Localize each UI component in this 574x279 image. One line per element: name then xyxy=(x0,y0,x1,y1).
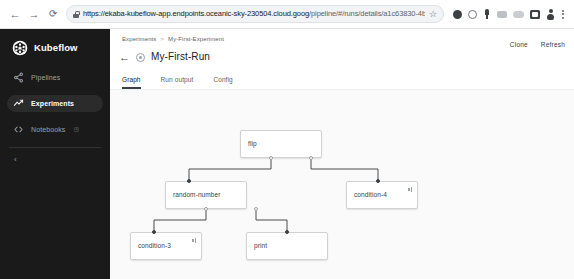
sidebar-item-experiments[interactable]: Experiments xyxy=(7,95,103,112)
graph-node-label-condition-3: condition-3 xyxy=(138,243,171,250)
lock-icon xyxy=(73,11,79,18)
header-actions: Clone Refresh xyxy=(510,42,565,49)
sidebar-item-pipelines[interactable]: Pipelines xyxy=(7,69,103,86)
extension-icon-1[interactable] xyxy=(453,10,462,19)
main-panel: Experiments > My-First-Experiment ← My-F… xyxy=(110,29,574,279)
graph-node-random-number[interactable]: random-number xyxy=(165,181,247,209)
extension-icon-6[interactable] xyxy=(530,10,540,19)
brand-header[interactable]: Kubeflow xyxy=(0,35,110,61)
extension-icon-pin[interactable] xyxy=(483,9,491,19)
run-status-icon xyxy=(136,53,145,62)
extension-icons xyxy=(449,9,555,20)
pipelines-icon xyxy=(13,72,24,83)
status-badge-check-flip xyxy=(309,135,316,142)
sidebar-collapse-button[interactable]: ‹ xyxy=(14,156,24,164)
breadcrumb: Experiments > My-First-Experiment xyxy=(119,34,564,44)
back-button[interactable]: ← xyxy=(119,52,130,63)
forward-arrow-icon[interactable]: → xyxy=(25,5,43,23)
graph-node-condition-3[interactable]: condition-3 xyxy=(130,232,202,260)
brand-title: Kubeflow xyxy=(34,43,78,53)
status-badge-check-random-number xyxy=(234,186,241,193)
page-title: My-First-Run xyxy=(151,52,210,62)
kebab-menu-icon[interactable] xyxy=(558,10,568,19)
tab-graph[interactable]: Graph xyxy=(122,77,141,90)
page-header: Experiments > My-First-Experiment ← My-F… xyxy=(110,29,574,90)
breadcrumb-separator: > xyxy=(160,36,164,42)
graph-node-label-flip: flip xyxy=(248,141,257,148)
input-port-random-number xyxy=(187,179,191,183)
sidebar-item-label-experiments: Experiments xyxy=(31,100,74,107)
url-text: https://ekaba-kubeflow-app.endpoints.oce… xyxy=(83,10,425,18)
experiments-icon xyxy=(13,98,24,109)
browser-window: ← → ⟳ https://ekaba-kubeflow-app.endpoin… xyxy=(0,0,574,279)
breadcrumb-parent[interactable]: Experiments xyxy=(122,36,156,42)
url-path: /pipeline/#/runs/details/a1c63830-4bd2-1… xyxy=(309,10,425,18)
address-bar[interactable]: https://ekaba-kubeflow-app.endpoints.oce… xyxy=(66,5,444,23)
navigation-buttons: ← → ⟳ xyxy=(6,5,62,23)
extension-icon-5[interactable] xyxy=(513,11,524,18)
graph-node-label-condition-4: condition-4 xyxy=(354,192,387,199)
sidebar-item-notebooks[interactable]: Notebooks ◳ xyxy=(7,121,103,138)
graph-node-label-print: print xyxy=(254,243,267,250)
graph-node-print[interactable]: print xyxy=(246,232,328,260)
input-port-print xyxy=(285,230,289,234)
sidebar-divider xyxy=(9,147,101,148)
clone-button[interactable]: Clone xyxy=(510,42,528,49)
output-port-flip-right xyxy=(309,156,313,160)
status-badge-condition-4 xyxy=(405,186,412,193)
sidebar-item-label-pipelines: Pipelines xyxy=(31,74,60,81)
tab-bar: Graph Run output Config xyxy=(122,69,233,89)
output-port-random-number-right xyxy=(254,207,258,211)
sidebar-item-label-notebooks: Notebooks xyxy=(31,126,65,133)
title-row: ← My-First-Run xyxy=(119,49,564,65)
back-arrow-icon[interactable]: ← xyxy=(6,5,24,23)
graph-node-label-random-number: random-number xyxy=(173,192,221,199)
status-badge-check-print xyxy=(315,237,322,244)
extension-icon-4[interactable] xyxy=(497,11,507,18)
output-port-flip-left xyxy=(269,156,273,160)
graph-node-flip[interactable]: flip xyxy=(240,130,322,158)
kubeflow-logo-icon xyxy=(12,40,28,56)
extension-icon-2[interactable] xyxy=(468,10,477,19)
status-badge-condition-3 xyxy=(189,237,196,244)
sidebar: Kubeflow Pipelines xyxy=(0,29,110,279)
sidebar-nav: Pipelines Experiments xyxy=(0,69,110,138)
breadcrumb-current[interactable]: My-First-Experiment xyxy=(168,36,224,42)
output-port-random-number-left xyxy=(204,207,208,211)
notebooks-icon xyxy=(13,124,24,135)
tab-run-output[interactable]: Run output xyxy=(161,77,194,90)
graph-node-condition-4[interactable]: condition-4 xyxy=(346,181,418,209)
profile-avatar-icon[interactable] xyxy=(546,9,555,20)
refresh-button[interactable]: Refresh xyxy=(541,42,565,49)
browser-toolbar: ← → ⟳ https://ekaba-kubeflow-app.endpoin… xyxy=(0,0,574,29)
bookmark-star-icon[interactable]: ☆ xyxy=(429,10,437,19)
pipeline-graph-canvas[interactable]: flip random-number condition-4 condition… xyxy=(110,90,574,279)
tab-config[interactable]: Config xyxy=(213,77,232,90)
input-port-condition-4 xyxy=(376,179,380,183)
url-host: https://ekaba-kubeflow-app.endpoints.oce… xyxy=(83,10,309,18)
external-link-icon: ◳ xyxy=(74,127,79,132)
input-port-condition-3 xyxy=(152,230,156,234)
reload-icon[interactable]: ⟳ xyxy=(44,5,62,23)
